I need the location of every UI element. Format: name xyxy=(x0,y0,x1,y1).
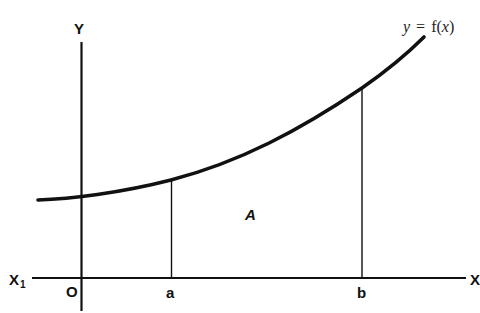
eq-y: y xyxy=(401,18,411,36)
x-axis-label: X xyxy=(470,271,480,288)
eq-equals: = xyxy=(416,18,425,35)
area-under-curve-diagram: Y X X1 O a b A y = f(x) xyxy=(0,0,480,313)
lower-bound-label-a: a xyxy=(166,284,175,301)
x1-subscript: 1 xyxy=(20,279,26,290)
curve-f-of-x xyxy=(38,37,424,200)
curve-equation-label: y = f(x) xyxy=(401,18,454,36)
eq-f: f( xyxy=(431,18,442,36)
upper-bound-label-b: b xyxy=(357,284,366,301)
eq-x: x xyxy=(441,18,449,35)
x1-main: X xyxy=(9,271,19,288)
eq-close-paren: ) xyxy=(449,18,454,36)
region-area-label: A xyxy=(244,206,256,223)
origin-label: O xyxy=(66,283,78,300)
y-axis-label: Y xyxy=(74,20,84,37)
x1-axis-label: X1 xyxy=(9,271,26,290)
